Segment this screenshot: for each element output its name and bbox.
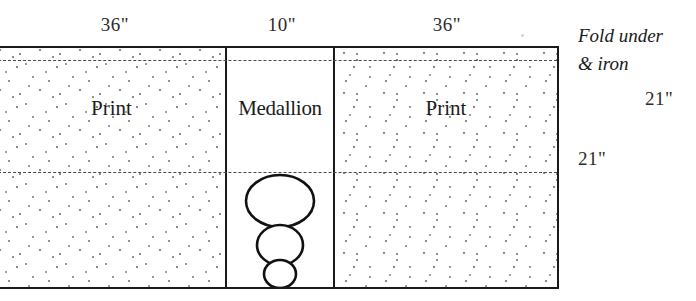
right-print-panel: Print	[335, 48, 557, 287]
medallion-large-ellipse	[246, 175, 314, 227]
scan-speck	[521, 34, 524, 37]
fold-under-note-line1: Fold under	[578, 23, 663, 49]
left-print-panel: Print	[0, 48, 225, 287]
print-pattern-fill	[335, 48, 557, 287]
fold-under-note-line2: & iron	[578, 51, 629, 77]
dimension-label-left-print: 36"	[60, 14, 170, 36]
fold-line-top	[0, 60, 557, 61]
medallion-panel: Medallion	[225, 48, 335, 287]
left-print-panel-label: Print	[0, 96, 225, 121]
medallion-small-ellipse	[264, 260, 296, 287]
dimension-label-right-print: 36"	[392, 14, 502, 36]
medallion-panel-label: Medallion	[227, 96, 333, 121]
diagram-canvas: 36" 10" 36" Print Medallion Print	[0, 0, 696, 301]
right-print-panel-label: Print	[335, 96, 557, 121]
side-dimension-bottom: 21"	[578, 148, 606, 170]
medallion-motif-icon	[234, 166, 326, 287]
print-pattern-fill	[0, 48, 225, 287]
side-dimension-top: 21"	[645, 88, 673, 110]
dimension-label-medallion: 10"	[237, 14, 327, 36]
fabric-frame: Print Medallion Print	[0, 46, 559, 289]
